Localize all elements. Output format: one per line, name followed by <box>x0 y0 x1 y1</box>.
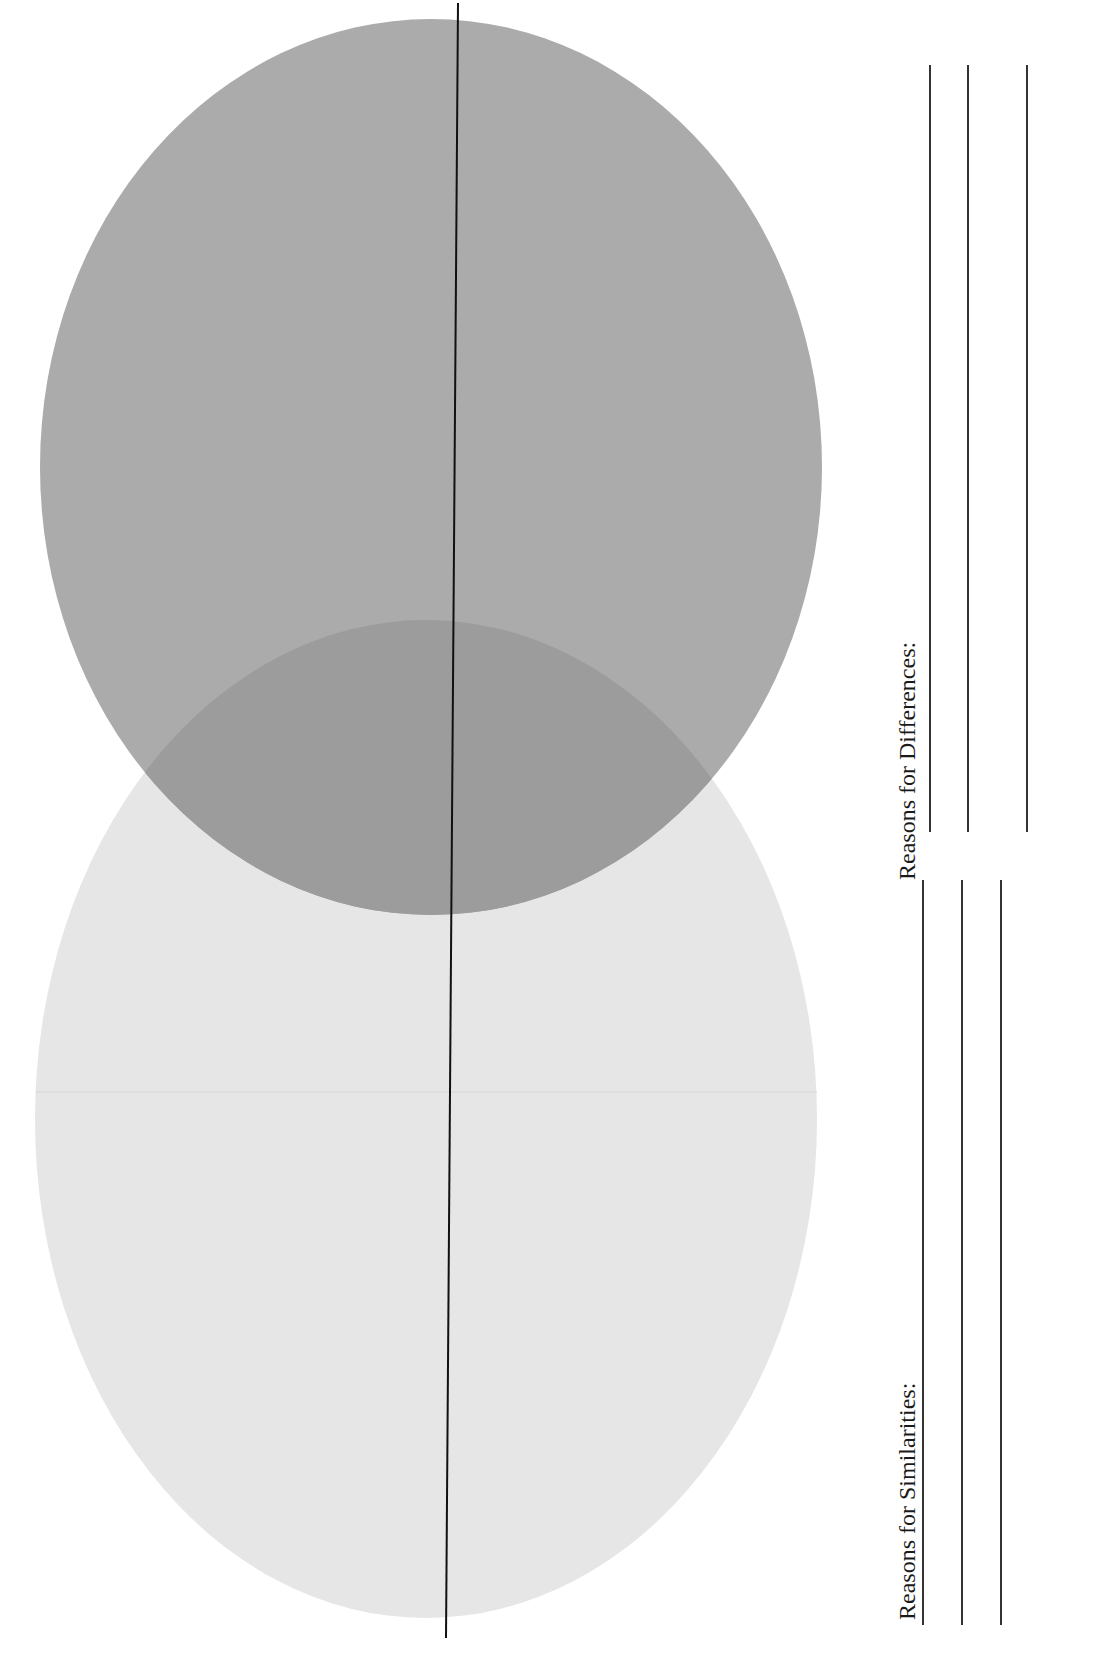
differences-answer-line-2[interactable] <box>967 65 969 832</box>
differences-answer-line-1[interactable] <box>929 65 931 832</box>
similarities-answer-line-3[interactable] <box>1000 880 1002 1625</box>
similarities-answer-line-2[interactable] <box>961 880 963 1625</box>
similarities-answer-line-1[interactable] <box>922 880 924 1625</box>
similarities-label: Reasons for Similarities: <box>895 1383 919 1620</box>
differences-answer-line-3[interactable] <box>1026 65 1028 832</box>
venn-diagram <box>0 0 1097 1665</box>
differences-label: Reasons for Differences: <box>895 642 919 880</box>
